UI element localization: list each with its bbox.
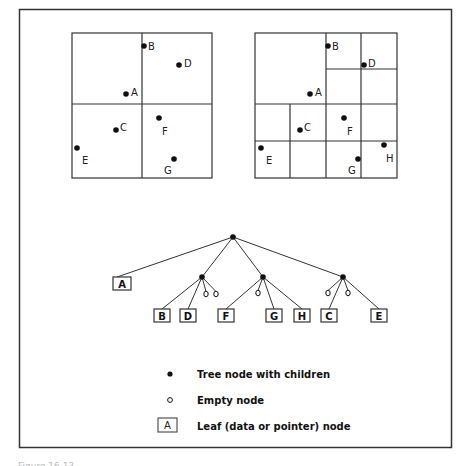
data-point-e (74, 145, 80, 151)
data-point-a (307, 91, 313, 97)
leaf-label: E (376, 311, 383, 322)
tree-internal-node (199, 274, 205, 280)
point-label: D (184, 58, 192, 69)
left-quadtree-points: BDACFEG (74, 41, 192, 176)
quadtree-tree: ABDFGHCE (113, 234, 387, 322)
point-label: H (386, 153, 394, 164)
data-point-a (123, 91, 129, 97)
point-label: C (304, 122, 311, 133)
data-point-f (341, 115, 347, 121)
tree-empty-node (256, 290, 260, 296)
point-label: G (164, 165, 172, 176)
legend-label-empty-node: Empty node (197, 395, 264, 406)
tree-empty-node (214, 291, 218, 297)
data-point-b (141, 43, 147, 49)
point-label: B (332, 41, 339, 52)
point-label: C (120, 122, 127, 133)
data-point-d (361, 62, 367, 68)
data-point-g (355, 156, 361, 162)
point-label: E (266, 155, 272, 166)
data-point-h (381, 142, 387, 148)
tree-empty-node (346, 290, 350, 296)
leaf-label: D (184, 311, 192, 322)
data-point-e (258, 145, 264, 151)
right-quadtree-partition: BDACFEGH (255, 33, 397, 178)
tree-empty-node (204, 291, 208, 297)
figure-frame (20, 10, 452, 448)
legend-label-tree-node: Tree node with children (197, 369, 330, 380)
figure-caption: Figure 16.13 (18, 458, 458, 466)
point-label: G (348, 165, 356, 176)
data-point-b (325, 43, 331, 49)
tree-edges (117, 237, 379, 309)
point-label: E (82, 155, 88, 166)
data-point-c (113, 127, 119, 133)
point-label: F (162, 126, 168, 137)
legend-leaf-box-label: A (164, 420, 171, 431)
point-label: A (131, 87, 138, 98)
leaf-label: H (298, 311, 306, 322)
legend: Tree node with children Empty node A Lea… (158, 369, 351, 432)
quadtree-figure: BDACFEG BDACFEGH ABDFGHCE Tree node with… (0, 0, 469, 466)
leaf-label: C (325, 311, 332, 322)
empty-dot-icon (168, 398, 173, 403)
point-label: A (315, 87, 322, 98)
left-quadtree-partition: BDACFEG (72, 33, 212, 178)
tree-nodes: ABDFGHCE (113, 234, 387, 322)
data-point-d (176, 62, 182, 68)
tree-empty-node (326, 290, 330, 296)
data-point-f (156, 115, 162, 121)
leaf-label: F (223, 311, 230, 322)
leaf-label: B (158, 311, 166, 322)
tree-root-node (230, 234, 236, 240)
point-label: D (368, 58, 376, 69)
data-point-c (297, 127, 303, 133)
leaf-label: G (270, 311, 278, 322)
tree-internal-node (260, 274, 266, 280)
point-label: B (148, 41, 155, 52)
filled-dot-icon (167, 371, 172, 376)
legend-label-leaf-node: Leaf (data or pointer) node (197, 421, 351, 432)
leaf-label: A (118, 279, 126, 290)
data-point-g (171, 156, 177, 162)
point-label: F (347, 126, 353, 137)
tree-internal-node (340, 274, 346, 280)
